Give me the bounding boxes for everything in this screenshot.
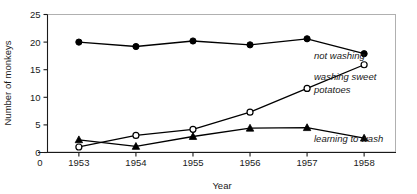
y-tick-label: 20 <box>30 37 41 48</box>
x-tick-label: 1954 <box>125 157 146 168</box>
x-axis-title: Year <box>212 180 231 191</box>
x-tick-label: 1953 <box>68 157 89 168</box>
y-tick-label: 25 <box>30 9 41 20</box>
y-axis-title: Number of monkeys <box>2 40 13 125</box>
legend-label: learning to wash <box>314 133 383 144</box>
x-origin-label: 0 <box>37 157 42 168</box>
data-point-open-circle <box>304 85 310 91</box>
data-point-open-circle <box>133 132 139 138</box>
x-tick-label: 1957 <box>297 157 318 168</box>
y-tick-label: 5 <box>35 119 40 130</box>
legend-label: potatoes <box>313 84 351 95</box>
legend-label: washing sweet <box>314 71 377 82</box>
data-point-open-circle <box>190 126 196 132</box>
legend-entry-learning-to-wash: learning to wash <box>314 133 383 144</box>
legend-entry-not-washing: not washing <box>314 50 365 61</box>
data-point-filled-circle <box>304 36 310 42</box>
x-tick-label: 1958 <box>354 157 375 168</box>
monkey-potato-washing-chart: 0510152025 0195319541955195619571958 Yea… <box>0 0 417 194</box>
x-tick-label: 1956 <box>239 157 260 168</box>
data-point-open-circle <box>247 109 253 115</box>
y-tick-label: 15 <box>30 64 41 75</box>
data-point-filled-circle <box>133 43 139 49</box>
x-tick-label: 1955 <box>182 157 203 168</box>
data-point-open-circle <box>76 144 82 150</box>
data-point-filled-circle <box>190 38 196 44</box>
data-point-filled-circle <box>76 39 82 45</box>
data-point-open-circle <box>361 62 367 68</box>
legend-label: not washing <box>314 50 365 61</box>
data-point-filled-circle <box>247 42 253 48</box>
y-tick-label: 10 <box>30 92 41 103</box>
